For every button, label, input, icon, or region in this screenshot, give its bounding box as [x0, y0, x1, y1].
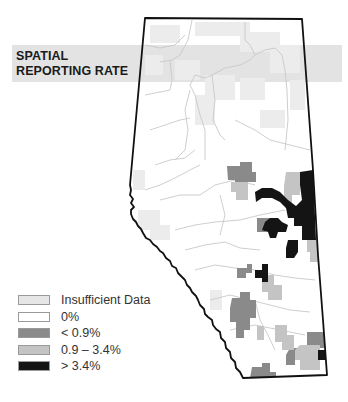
legend-swatch: [18, 295, 50, 305]
legend: Insufficient Data 0% < 0.9% 0.9 – 3.4% >…: [18, 292, 150, 375]
legend-label: < 0.9%: [61, 326, 100, 340]
map-title: SPATIAL REPORTING RATE: [16, 49, 128, 79]
legend-swatch: [18, 361, 50, 371]
legend-swatch: [18, 345, 50, 355]
legend-label: Insufficient Data: [61, 293, 150, 307]
legend-label: 0%: [61, 310, 79, 324]
title-line-1: SPATIAL: [16, 49, 128, 64]
legend-swatch: [18, 328, 50, 338]
legend-swatch: [18, 312, 50, 322]
insufficient-data-areas: [133, 22, 305, 310]
legend-item-high: > 3.4%: [18, 358, 150, 375]
legend-item-zero: 0%: [18, 309, 150, 326]
legend-label: > 3.4%: [61, 359, 100, 373]
legend-label: 0.9 – 3.4%: [61, 343, 121, 357]
legend-item-low: < 0.9%: [18, 325, 150, 342]
legend-item-mid: 0.9 – 3.4%: [18, 342, 150, 359]
title-line-2: REPORTING RATE: [16, 64, 128, 79]
legend-item-insufficient: Insufficient Data: [18, 292, 150, 309]
